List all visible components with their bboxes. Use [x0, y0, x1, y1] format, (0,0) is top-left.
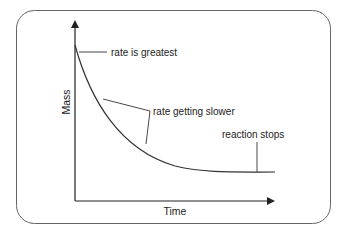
annotation-rate-greatest: rate is greatest	[111, 47, 177, 58]
mass-time-diagram: rate is greatest rate getting slower rea…	[0, 0, 349, 232]
annotation-rate-slower: rate getting slower	[153, 106, 235, 117]
annotation-reaction-stops: reaction stops	[222, 129, 284, 140]
y-axis-label: Mass	[60, 89, 72, 114]
leader-line-rate-slower	[103, 99, 150, 144]
x-axis-label: Time	[164, 205, 187, 217]
diagram-frame	[17, 11, 331, 224]
